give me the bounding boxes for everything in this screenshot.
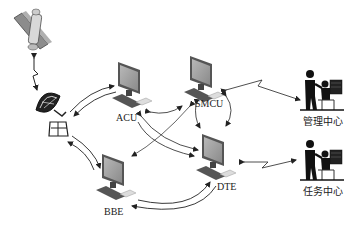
node-label-smcu: SMCU (195, 98, 223, 109)
node-label-mgmt-center: 管理中心 (303, 113, 343, 128)
link-antenna-acu (70, 86, 116, 116)
link-acu-smcu (150, 106, 182, 113)
node-label-dte: DTE (217, 181, 236, 192)
computer-bbe (96, 154, 136, 200)
link-antenna-bbe (68, 136, 100, 170)
computer-acu (112, 62, 152, 108)
dish-antenna-icon (36, 93, 68, 136)
link-dte-mission (244, 160, 296, 168)
link-smcu-mgmt (226, 80, 300, 100)
link-satellite-antenna (33, 58, 38, 90)
node-label-mission-center: 任务中心 (303, 183, 343, 198)
operator-workstation-icon-mgmt (300, 70, 344, 110)
computer-dte (196, 134, 236, 180)
computer-smcu (184, 56, 224, 102)
operator-workstation-icon-mission (300, 140, 344, 180)
diagram-canvas: ACU SMCU BBE DTE 管理中心 任务中心 (0, 0, 358, 226)
link-acu-dte (138, 116, 198, 156)
node-label-bbe: BBE (104, 206, 123, 217)
node-label-acu: ACU (116, 112, 137, 123)
satellite-icon (14, 9, 52, 50)
link-bbe-dte (132, 182, 216, 209)
